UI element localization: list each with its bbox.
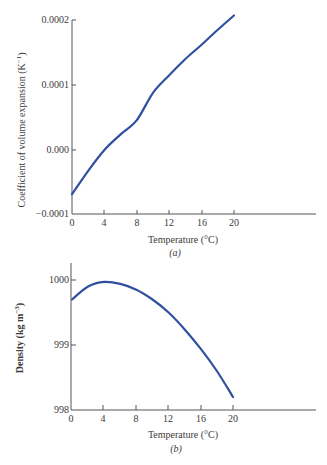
chart-a-xtick-label: 0 <box>70 217 75 228</box>
chart-b-xtick-label: 0 <box>69 413 74 424</box>
figure: 0.0002 0.0001 0.000 −0.0001 0 4 8 12 16 … <box>0 0 327 465</box>
chart-b-ylabel: Density (kg m−3) <box>13 303 26 373</box>
chart-b-xtick-label: 4 <box>101 413 106 424</box>
chart-a-xtick-label: 16 <box>197 217 207 228</box>
chart-b: 1000 999 998 0 4 8 12 16 20 Temperature … <box>13 263 316 455</box>
chart-a-xtick-label: 4 <box>102 217 107 228</box>
chart-a-ytick-label: 0.0002 <box>42 14 70 25</box>
chart-a-xlabel: Temperature (°C) <box>148 234 218 246</box>
chart-a-xtick-label: 20 <box>229 217 239 228</box>
chart-b-curve <box>72 282 233 397</box>
chart-a-xtick-label: 8 <box>135 217 140 228</box>
chart-b-caption: (b) <box>170 443 182 455</box>
chart-a-xtick-label: 12 <box>164 217 174 228</box>
chart-a-ytick-label: 0.0001 <box>42 79 70 90</box>
chart-a-ytick-label: −0.0001 <box>36 208 69 219</box>
chart-a-ylabel: Coefficient of volume expansion (K−1) <box>15 52 28 207</box>
chart-b-ytick-label: 998 <box>54 404 69 415</box>
chart-a-ytick-label: 0.000 <box>47 144 70 155</box>
chart-b-ytick-label: 1000 <box>49 274 69 285</box>
chart-b-ytick-label: 999 <box>54 339 69 350</box>
chart-b-xtick-label: 20 <box>228 413 238 424</box>
chart-b-xtick-label: 12 <box>163 413 173 424</box>
chart-b-axes <box>71 263 316 410</box>
chart-b-xtick-label: 8 <box>134 413 139 424</box>
chart-a-curve <box>72 16 234 195</box>
chart-b-xtick-label: 16 <box>196 413 206 424</box>
chart-a: 0.0002 0.0001 0.000 −0.0001 0 4 8 12 16 … <box>15 14 316 259</box>
chart-b-xlabel: Temperature (°C) <box>148 429 218 441</box>
chart-a-caption: (a) <box>169 247 181 259</box>
chart-a-axes <box>72 20 316 214</box>
